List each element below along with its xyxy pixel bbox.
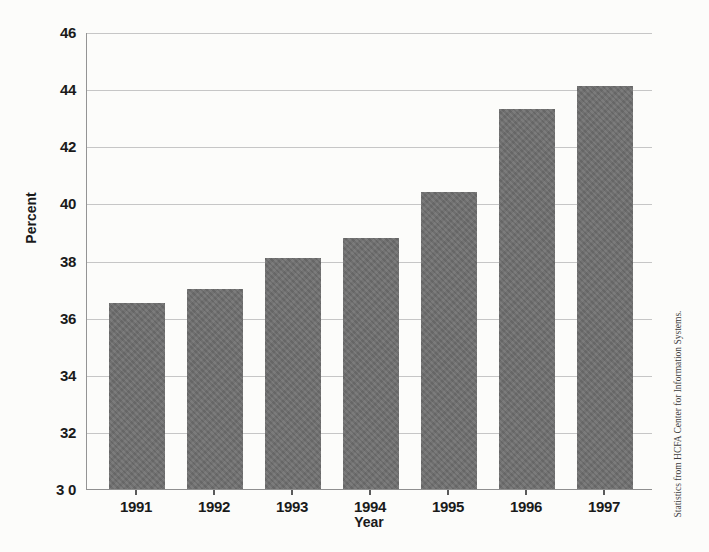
y-tick-label-34: 34 [24, 367, 76, 384]
x-tick-label-1997: 1997 [573, 498, 635, 515]
gridline-y-40 [87, 204, 652, 205]
x-tick-label-1995: 1995 [417, 498, 479, 515]
bar-1997 [577, 86, 633, 489]
x-tick-1997 [603, 490, 605, 495]
bar-1993 [265, 258, 321, 489]
x-tick-1993 [291, 490, 293, 495]
y-tick-label-44: 44 [24, 81, 76, 98]
x-tick-label-1996: 1996 [495, 498, 557, 515]
gridline-y-42 [87, 147, 652, 148]
bar-1991 [109, 303, 165, 489]
x-tick-1995 [447, 490, 449, 495]
x-tick-label-1994: 1994 [339, 498, 401, 515]
x-tick-1992 [213, 490, 215, 495]
y-tick-label-46: 46 [24, 24, 76, 41]
bar-1995 [421, 192, 477, 489]
gridline-y-46 [87, 33, 652, 34]
y-tick-label-30: 3 0 [24, 481, 76, 498]
x-tick-1996 [525, 490, 527, 495]
x-tick-1994 [369, 490, 371, 495]
x-tick-label-1992: 1992 [183, 498, 245, 515]
gridline-y-44 [87, 90, 652, 91]
y-tick-label-38: 38 [24, 253, 76, 270]
y-tick-label-40: 40 [24, 195, 76, 212]
bar-1992 [187, 289, 243, 489]
bar-1994 [343, 238, 399, 489]
plot-area [86, 33, 652, 490]
y-tick-label-36: 36 [24, 310, 76, 327]
x-tick-label-1991: 1991 [105, 498, 167, 515]
bar-chart-figure: Percent Year Statistics from HCFA Center… [0, 0, 709, 552]
y-tick-label-32: 32 [24, 424, 76, 441]
source-caption: Statistics from HCFA Center for Informat… [673, 311, 683, 518]
x-axis-title: Year [354, 514, 384, 530]
bar-1996 [499, 109, 555, 489]
x-tick-label-1993: 1993 [261, 498, 323, 515]
x-tick-1991 [135, 490, 137, 495]
y-tick-label-42: 42 [24, 138, 76, 155]
